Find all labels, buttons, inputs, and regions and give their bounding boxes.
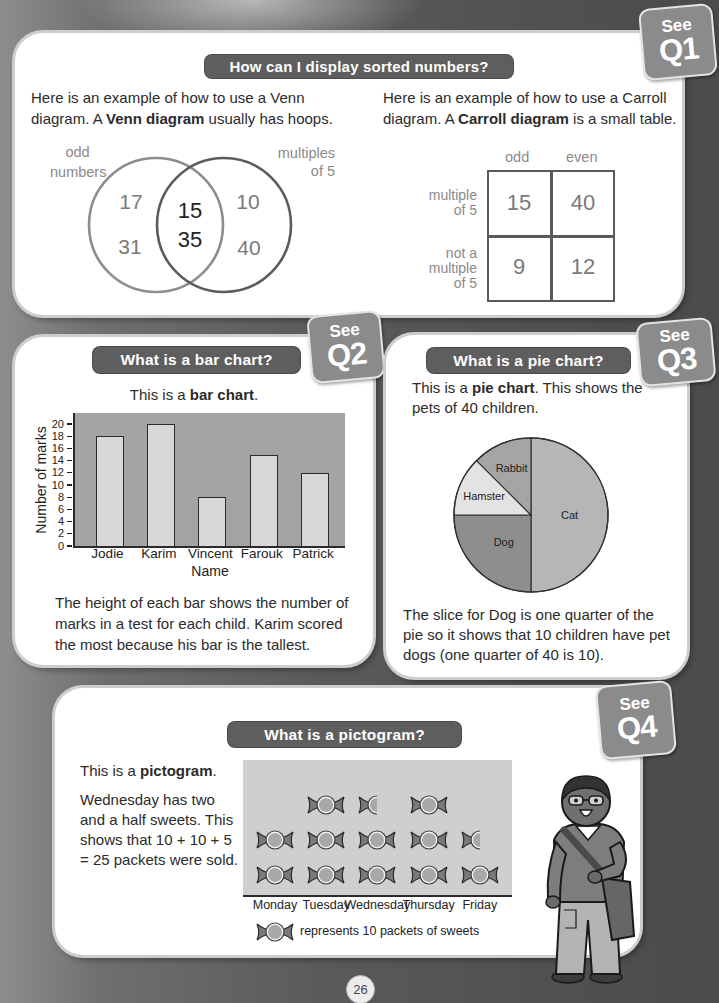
candy-icon bbox=[306, 794, 346, 820]
y-tick-mark bbox=[67, 448, 72, 449]
label-line: multiples bbox=[265, 144, 335, 162]
text-span: This is a bbox=[80, 762, 140, 779]
carroll-row-label-not-multiple-of-5: not a multiple of 5 bbox=[400, 246, 477, 291]
pie-slice-label: Rabbit bbox=[496, 462, 528, 474]
page-number: 26 bbox=[346, 975, 375, 1003]
textbook-page: See Q1 How can I display sorted numbers?… bbox=[0, 0, 719, 1003]
paragraph-line: pie so it shows that 10 children have pe… bbox=[403, 625, 670, 645]
bar-category-label: Jodie bbox=[91, 546, 123, 561]
bold-term-pie-chart: pie chart bbox=[472, 379, 535, 396]
bar-chart-explanation: The height of each bar shows the number … bbox=[55, 592, 349, 655]
carroll-col-header-odd: odd bbox=[505, 148, 529, 166]
pie-intro-line2: pets of 40 children. bbox=[412, 398, 643, 418]
badge-question-label: Q4 bbox=[600, 710, 674, 746]
carroll-cell: 40 bbox=[571, 190, 595, 216]
carroll-cell: 9 bbox=[513, 254, 525, 280]
paragraph-line: = 25 packets were sold. bbox=[80, 850, 238, 870]
venn-value: 40 bbox=[237, 236, 260, 260]
carroll-cell: 12 bbox=[571, 254, 595, 280]
venn-intro-line2: diagram. A Venn diagram usually has hoop… bbox=[31, 108, 333, 129]
text-span: . bbox=[213, 762, 217, 779]
half-candy-icon bbox=[460, 829, 480, 855]
bar-vincent bbox=[198, 497, 226, 546]
label-line: numbers bbox=[50, 163, 105, 181]
pie-chart-explanation: The slice for Dog is one quarter of the … bbox=[403, 605, 670, 665]
pictogram-grid bbox=[243, 760, 512, 897]
paragraph-line: The height of each bar shows the number … bbox=[55, 592, 349, 613]
text-span: . bbox=[254, 386, 258, 403]
bar-category-label: Farouk bbox=[241, 546, 283, 561]
venn-value: 31 bbox=[118, 235, 141, 259]
bar-chart-intro: This is a bar chart. bbox=[15, 384, 373, 405]
candy-icon bbox=[409, 864, 449, 890]
text-span: usually has hoops. bbox=[204, 110, 332, 127]
venn-label-multiples-of-5: multiples of 5 bbox=[265, 144, 335, 180]
carroll-intro-line2: diagram. A Carroll diagram is a small ta… bbox=[383, 108, 676, 129]
bar-category-label: Patrick bbox=[292, 546, 333, 561]
candy-icon bbox=[409, 794, 449, 820]
bold-term-venn-diagram: Venn diagram bbox=[106, 110, 204, 127]
cartoon-boy-illustration bbox=[540, 770, 640, 985]
section-title-bar-chart: What is a bar chart? bbox=[93, 347, 300, 373]
bar-category-label: Karim bbox=[141, 546, 176, 561]
label-line: of 5 bbox=[400, 203, 477, 218]
pictogram-explanation: Wednesday has two and a half sweets. Thi… bbox=[80, 790, 238, 870]
candy-icon bbox=[255, 829, 295, 855]
label-line: of 5 bbox=[265, 162, 335, 180]
venn-value: 17 bbox=[119, 190, 142, 214]
candy-icon bbox=[306, 829, 346, 855]
pie-slice-label: Hamster bbox=[463, 490, 505, 502]
venn-intro-text: Here is an example of how to use a Venn … bbox=[31, 87, 333, 129]
pictogram-key-text: represents 10 packets of sweets bbox=[300, 924, 479, 938]
venn-value-intersection: 15 bbox=[178, 198, 202, 224]
venn-value: 10 bbox=[236, 190, 259, 214]
section-title-pie-chart: What is a pie chart? bbox=[427, 348, 630, 373]
pictogram-day-label: Friday bbox=[462, 898, 497, 912]
carroll-divider bbox=[489, 235, 613, 238]
pie-slice-label: Cat bbox=[561, 509, 578, 521]
bold-term-carroll-diagram: Carroll diagram bbox=[458, 110, 569, 127]
y-tick-mark bbox=[67, 460, 72, 461]
pie-intro-line1: This is a pie chart. This shows the bbox=[412, 378, 643, 398]
y-tick-mark bbox=[67, 533, 72, 534]
candy-icon bbox=[357, 864, 397, 890]
text-span: This is a bbox=[412, 379, 472, 396]
venn-value-intersection: 35 bbox=[178, 227, 202, 253]
bar-chart-x-axis-label: Name bbox=[191, 563, 228, 579]
pie-chart: CatDogHamsterRabbit bbox=[449, 433, 613, 597]
candy-icon bbox=[255, 864, 295, 890]
paragraph-line: and a half sweets. This bbox=[80, 810, 238, 830]
badge-question-label: Q3 bbox=[640, 342, 714, 378]
paragraph-line: the most because his bar is the tallest. bbox=[55, 634, 349, 655]
pictogram-day-label: Wednesday bbox=[344, 898, 410, 912]
carroll-intro-text: Here is an example of how to use a Carro… bbox=[383, 87, 676, 129]
carroll-intro-line1: Here is an example of how to use a Carro… bbox=[383, 87, 676, 108]
paragraph-line: The slice for Dog is one quarter of the bbox=[403, 605, 670, 625]
venn-intro-line1: Here is an example of how to use a Venn bbox=[31, 87, 333, 108]
see-q1-badge: See Q1 bbox=[638, 3, 718, 81]
section-title-pictogram: What is a pictogram? bbox=[228, 722, 461, 747]
candy-icon bbox=[460, 864, 500, 890]
pictogram-day-label: Monday bbox=[253, 898, 297, 912]
badge-question-label: Q1 bbox=[643, 32, 715, 68]
see-q3-badge: See Q3 bbox=[635, 317, 716, 387]
pie-slice-label: Dog bbox=[494, 536, 514, 548]
pie-slice-dog bbox=[454, 515, 531, 592]
carroll-row-label-multiple-of-5: multiple of 5 bbox=[400, 188, 477, 218]
bar-karim bbox=[147, 424, 175, 546]
pictogram-day-label: Thursday bbox=[403, 898, 455, 912]
bar-farouk bbox=[250, 455, 278, 547]
y-tick-mark bbox=[67, 497, 72, 498]
candy-icon bbox=[357, 829, 397, 855]
label-line: not a bbox=[400, 246, 477, 261]
candy-icon bbox=[255, 921, 295, 943]
bar-chart-plot-area bbox=[73, 413, 345, 548]
paragraph-line: dogs (one quarter of 40 is 10). bbox=[403, 645, 670, 665]
carroll-cell: 15 bbox=[507, 190, 531, 216]
y-tick-mark bbox=[67, 436, 72, 437]
y-tick-mark bbox=[67, 472, 72, 473]
see-q2-badge: See Q2 bbox=[306, 310, 386, 384]
y-tick-mark bbox=[67, 509, 72, 510]
text-span: . This shows the bbox=[535, 379, 643, 396]
bar-chart-y-axis-label: Number of marks bbox=[33, 426, 49, 533]
